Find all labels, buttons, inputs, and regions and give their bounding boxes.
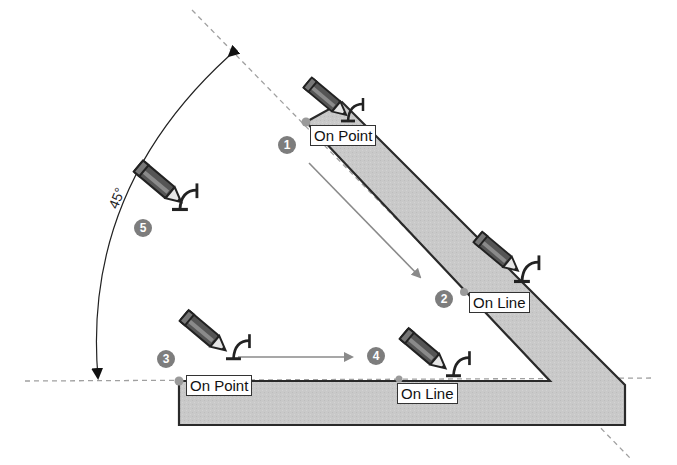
inference-label-1: On Point [310, 125, 376, 146]
protractor-icon [226, 334, 249, 359]
diagram-canvas [0, 0, 677, 465]
inference-label-2: On Line [469, 292, 530, 313]
step-badge-2: 2 [435, 290, 453, 308]
inference-point-3 [175, 377, 184, 386]
step-badge-4: 4 [367, 347, 385, 365]
inference-label-4: On Line [397, 383, 458, 404]
pencil-cursor-icon [180, 310, 230, 355]
step-badge-3: 3 [157, 350, 175, 368]
pencil-cursor-icon [134, 161, 186, 208]
pencil-cursor-icon [400, 328, 450, 373]
step-badge-1: 1 [278, 136, 296, 154]
inference-label-3: On Point [186, 375, 252, 396]
inference-point-2 [460, 288, 468, 296]
protractor-icon [446, 351, 469, 376]
step-badge-5: 5 [134, 219, 152, 237]
inference-point-4 [396, 376, 403, 383]
